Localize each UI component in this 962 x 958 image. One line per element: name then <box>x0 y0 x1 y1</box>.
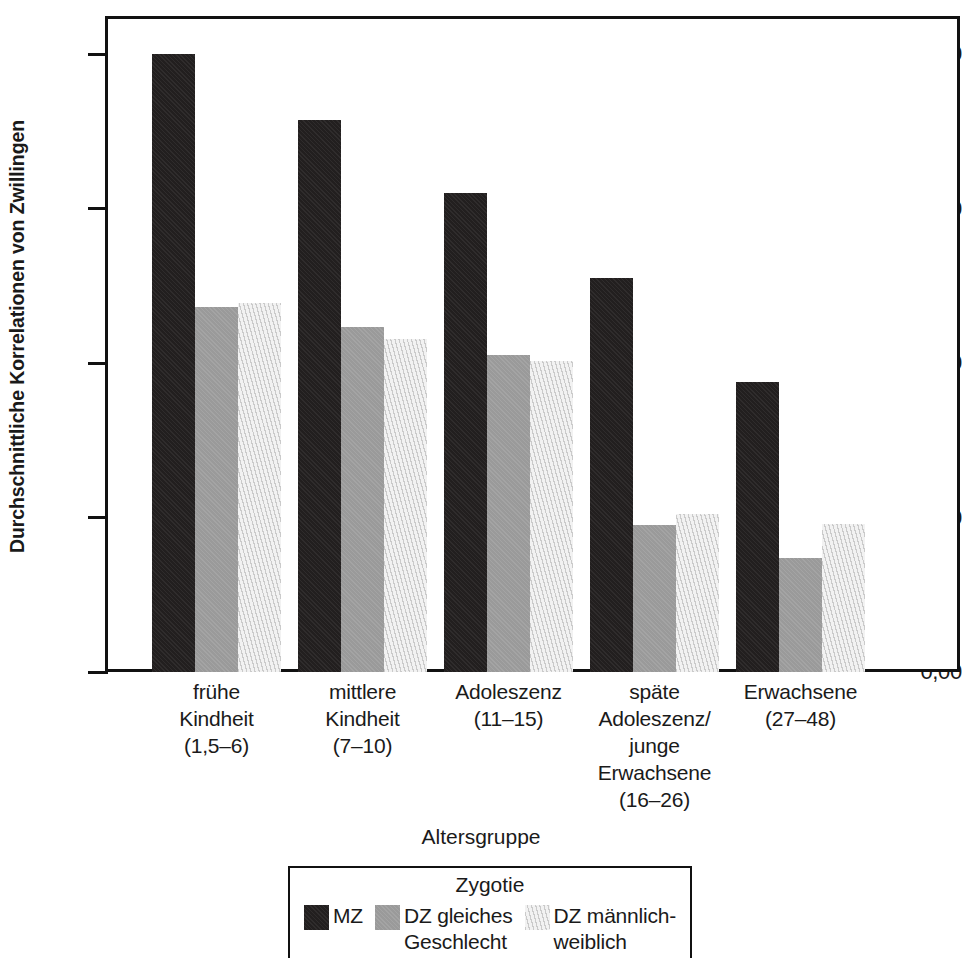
x-axis-category-label-line: (27–48) <box>701 705 901 732</box>
bar-mz-group-4 <box>590 278 633 672</box>
legend-swatch-mz <box>304 905 329 930</box>
bar-dz-same-group-3 <box>487 355 530 672</box>
x-axis-title: Altersgruppe <box>0 825 962 849</box>
legend-item-2: DZ gleichesGeschlecht <box>375 903 513 955</box>
legend-items: MZDZ gleichesGeschlechtDZ männlich-weibl… <box>290 903 690 955</box>
bar-mz-group-1 <box>152 54 195 672</box>
bar-dz-same-group-2 <box>341 327 384 672</box>
bar-mz-group-5 <box>736 382 779 672</box>
bar-dz-os-group-4 <box>676 514 719 672</box>
bar-dz-os-group-5 <box>822 524 865 672</box>
x-axis-category-label-line: junge <box>555 732 755 759</box>
x-axis-category-label-line: Erwachsene <box>701 678 901 705</box>
legend-label: DZ männlich-weiblich <box>554 903 676 955</box>
bar-mz-group-3 <box>444 193 487 672</box>
legend-label: DZ gleichesGeschlecht <box>404 903 513 955</box>
bar-dz-same-group-4 <box>633 525 676 672</box>
legend-title: Zygotie <box>290 873 690 897</box>
legend-swatch-dz-same <box>375 905 400 930</box>
x-axis-category-label-line: (7–10) <box>263 732 463 759</box>
legend-label-line: Geschlecht <box>404 929 513 955</box>
legend-item-1: MZ <box>304 903 363 930</box>
bar-dz-os-group-1 <box>238 303 281 672</box>
legend-label-line: DZ männlich- <box>554 903 676 929</box>
legend-label-line: MZ <box>333 903 363 929</box>
x-axis-category-label-line: Erwachsene <box>555 759 755 786</box>
legend-item-3: DZ männlich-weiblich <box>525 903 676 955</box>
legend-label-line: weiblich <box>554 929 676 955</box>
bar-dz-same-group-1 <box>195 307 238 672</box>
x-axis-category-label: Erwachsene(27–48) <box>701 678 901 732</box>
legend-label-line: DZ gleiches <box>404 903 513 929</box>
x-axis-title-text: Altersgruppe <box>421 825 540 848</box>
y-axis-title-text: Durchschnittliche Korrelationen von Zwil… <box>7 119 30 552</box>
legend-label: MZ <box>333 903 363 929</box>
chart-legend: Zygotie MZDZ gleichesGeschlechtDZ männli… <box>288 866 692 958</box>
bar-dz-os-group-2 <box>384 339 427 672</box>
y-axis-title: Durchschnittliche Korrelationen von Zwil… <box>0 0 36 672</box>
x-axis-category-label-line: (16–26) <box>555 786 755 813</box>
legend-swatch-dz-os <box>525 905 550 930</box>
plot-area <box>105 16 960 672</box>
bar-dz-same-group-5 <box>779 558 822 672</box>
bar-dz-os-group-3 <box>530 361 573 672</box>
bar-mz-group-2 <box>298 120 341 672</box>
